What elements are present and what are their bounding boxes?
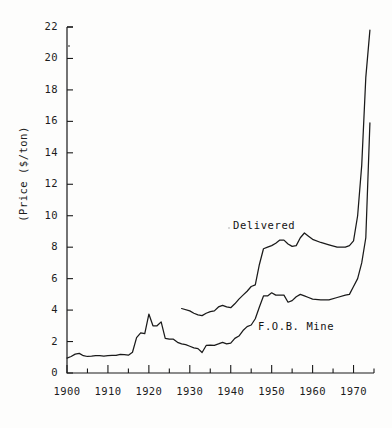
series-label-fob-mine: F.O.B. Mine [258,320,334,332]
y-tick-label: 12 [28,177,58,189]
y-tick-label: 6 [28,272,58,284]
y-tick-label: 20 [28,51,58,63]
x-tick-label: 1950 [252,385,292,397]
x-tick-label: 1970 [334,385,374,397]
x-tick-label: 1920 [129,385,169,397]
scan-artifact-speck [68,45,70,47]
y-tick-label: 22 [28,20,58,32]
x-tick-label: 1960 [293,385,333,397]
y-tick-label: 8 [28,240,58,252]
y-tick-label: 2 [28,335,58,347]
series-line-delivered [182,30,370,315]
chart-plot-area [0,0,392,428]
y-tick-label: 14 [28,146,58,158]
x-tick-label: 1940 [211,385,251,397]
y-tick-label: 16 [28,114,58,126]
y-tick-label: 4 [28,303,58,315]
series-label-delivered: Delivered [233,219,295,231]
y-tick-label: 10 [28,209,58,221]
scan-artifact-speck [228,227,230,229]
coal-price-chart: (Price ($/ton) 0246810121416182022 19001… [0,0,392,428]
chart-series-lines [67,30,370,358]
x-tick-label: 1930 [170,385,210,397]
y-tick-label: 0 [28,366,58,378]
x-tick-label: 1910 [88,385,128,397]
y-tick-label: 18 [28,83,58,95]
x-tick-label: 1900 [47,385,87,397]
